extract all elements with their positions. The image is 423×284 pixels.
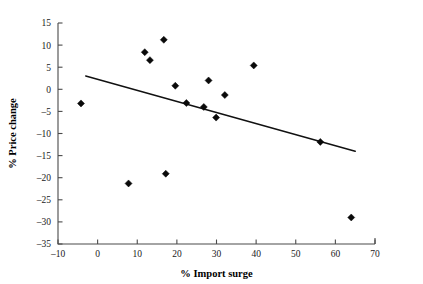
trend-line <box>86 76 355 151</box>
x-tick-label: 30 <box>212 249 222 259</box>
x-tick-label: 0 <box>95 249 100 259</box>
scatter-chart-figure: –10010203040506070 151050–5–10–15–20–25–… <box>0 0 423 284</box>
data-point <box>77 100 84 107</box>
data-point <box>205 77 212 84</box>
data-point <box>348 214 355 221</box>
x-tick-label: 20 <box>172 249 182 259</box>
data-point <box>125 180 132 187</box>
x-axis-title: % Import surge <box>180 268 253 279</box>
data-point <box>317 138 324 145</box>
data-point <box>146 57 153 64</box>
data-point <box>221 92 228 99</box>
chart-canvas: –10010203040506070 151050–5–10–15–20–25–… <box>0 0 423 284</box>
data-point <box>141 49 148 56</box>
x-axis-tick-labels: –10010203040506070 <box>50 249 380 259</box>
y-tick-label: 5 <box>46 63 51 73</box>
data-point <box>250 62 257 69</box>
data-points <box>77 36 354 221</box>
y-axis-title: % Price change <box>7 98 18 169</box>
x-tick-label: 10 <box>133 249 143 259</box>
x-tick-label: –10 <box>50 249 66 259</box>
y-axis-tick-labels: 151050–5–10–15–20–25–30–35 <box>36 18 52 249</box>
x-tick-label: 60 <box>331 249 341 259</box>
y-tick-label: –15 <box>36 151 52 161</box>
y-tick-label: 0 <box>46 85 51 95</box>
y-tick-label: –20 <box>36 173 52 183</box>
y-tick-label: 10 <box>42 41 52 51</box>
x-tick-label: 50 <box>291 249 301 259</box>
x-tick-label: 40 <box>251 249 261 259</box>
y-tick-label: –5 <box>41 107 52 117</box>
y-tick-label: –10 <box>36 129 52 139</box>
y-tick-label: –35 <box>36 239 52 249</box>
y-tick-label: –25 <box>36 195 52 205</box>
data-point <box>172 82 179 89</box>
data-point <box>160 36 167 43</box>
y-tick-label: 15 <box>42 18 52 28</box>
x-tick-label: 70 <box>370 249 380 259</box>
data-point <box>213 114 220 121</box>
x-axis-ticks <box>58 240 375 245</box>
axis-frame <box>58 23 375 244</box>
y-axis-ticks <box>58 23 63 244</box>
data-point <box>162 170 169 177</box>
y-tick-label: –30 <box>36 217 52 227</box>
